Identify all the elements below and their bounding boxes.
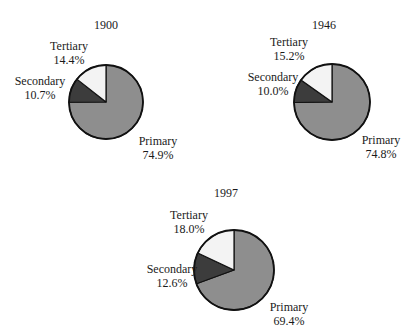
category-name: Tertiary <box>44 39 94 53</box>
category-name: Secondary <box>243 70 303 84</box>
label-tertiary-1946: Tertiary 15.2% <box>264 35 314 63</box>
category-name: Primary <box>133 134 183 148</box>
category-value: 74.8% <box>356 147 406 161</box>
label-primary-1946: Primary 74.8% <box>356 133 406 161</box>
category-name: Tertiary <box>164 208 214 222</box>
label-secondary-1900: Secondary 10.7% <box>10 74 70 102</box>
category-name: Secondary <box>10 74 70 88</box>
category-value: 15.2% <box>264 49 314 63</box>
label-tertiary-1997: Tertiary 18.0% <box>164 208 214 236</box>
category-value: 69.4% <box>264 314 314 328</box>
category-value: 10.0% <box>243 84 303 98</box>
label-primary-1997: Primary 69.4% <box>264 300 314 328</box>
category-value: 74.9% <box>133 148 183 162</box>
label-primary-1900: Primary 74.9% <box>133 134 183 162</box>
category-name: Secondary <box>142 262 202 276</box>
category-value: 12.6% <box>142 276 202 290</box>
category-value: 14.4% <box>44 53 94 67</box>
category-name: Primary <box>264 300 314 314</box>
label-secondary-1946: Secondary 10.0% <box>243 70 303 98</box>
category-value: 10.7% <box>10 88 70 102</box>
chart-title-1997: 1997 <box>206 186 246 200</box>
chart-title-1900: 1900 <box>86 18 126 32</box>
label-tertiary-1900: Tertiary 14.4% <box>44 39 94 67</box>
label-secondary-1997: Secondary 12.6% <box>142 262 202 290</box>
category-value: 18.0% <box>164 222 214 236</box>
category-name: Tertiary <box>264 35 314 49</box>
chart-title-1946: 1946 <box>304 18 344 32</box>
category-name: Primary <box>356 133 406 147</box>
